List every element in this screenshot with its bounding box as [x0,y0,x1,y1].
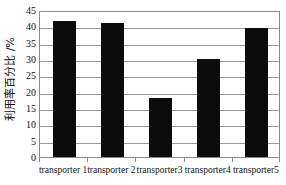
y-axis-tick-label: 45 [16,6,36,16]
y-axis-tick-label: 15 [16,104,36,114]
bar [53,21,76,157]
x-axis-tick [232,158,233,162]
plot-area [39,11,280,158]
bar [197,59,220,157]
y-axis-tick-label: 0 [16,153,36,163]
y-axis-tick-label: 5 [16,137,36,147]
bar [101,23,124,157]
x-axis-tick [87,158,88,162]
bar [245,28,268,157]
bars-layer [40,12,279,157]
x-axis-tick [135,158,136,162]
x-axis-tick-label: transporter5 [227,163,285,177]
y-axis-tick-label: 10 [16,120,36,130]
y-axis-tick-label: 25 [16,71,36,81]
x-axis-tick [184,158,185,162]
y-axis-tick-labels: 051015202530354045 [16,11,36,158]
x-axis-tick [279,158,280,162]
y-axis-tick-label: 30 [16,55,36,65]
y-axis-tick-label: 40 [16,22,36,32]
y-axis-tick-label: 35 [16,39,36,49]
bar [149,98,172,157]
y-axis-tick-label: 20 [16,88,36,98]
x-axis-tick [39,158,40,162]
y-axis-title-text: 利用率百分比 /% [1,37,17,121]
bar-chart-figure: 利用率百分比 /% 051015202530354045 transporter… [0,0,286,185]
x-axis-tick-labels: transporter 1transporter 2transporter3tr… [30,163,286,179]
